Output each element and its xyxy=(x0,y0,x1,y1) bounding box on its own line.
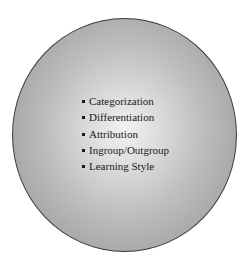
item-label: Attribution xyxy=(89,128,138,140)
bullet-icon xyxy=(82,100,85,103)
bullet-icon xyxy=(82,116,85,119)
list-item: Categorization xyxy=(82,93,169,109)
bullet-list: Categorization Differentiation Attributi… xyxy=(82,93,169,174)
list-item: Learning Style xyxy=(82,158,169,174)
item-label: Categorization xyxy=(89,95,154,107)
bullet-icon xyxy=(82,133,85,136)
bullet-icon xyxy=(82,149,85,152)
item-label: Ingroup/Outgroup xyxy=(89,144,169,156)
item-label: Differentiation xyxy=(89,111,154,123)
list-item: Ingroup/Outgroup xyxy=(82,142,169,158)
item-label: Learning Style xyxy=(89,160,154,172)
bullet-icon xyxy=(82,165,85,168)
list-item: Differentiation xyxy=(82,109,169,125)
list-item: Attribution xyxy=(82,126,169,142)
